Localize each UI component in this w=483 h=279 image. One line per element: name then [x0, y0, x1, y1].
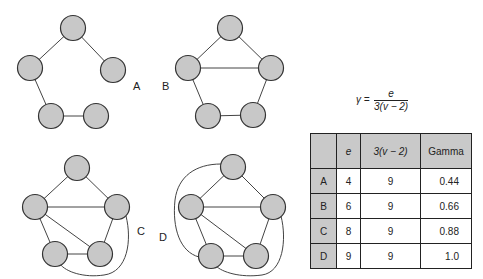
- cell-edges: 4: [337, 169, 361, 194]
- cell-max-edges: 9: [361, 169, 421, 194]
- node-right: [259, 56, 284, 81]
- node-top: [218, 16, 243, 41]
- row-graph-label: D: [311, 244, 337, 269]
- node-bottom-left: [39, 104, 64, 129]
- formula-denominator: 3(v − 2): [374, 101, 408, 113]
- table-row: D 9 9 1.0: [311, 244, 472, 269]
- cell-gamma: 0.44: [421, 169, 472, 194]
- cell-max-edges: 9: [361, 219, 421, 244]
- graph-d: D: [159, 155, 286, 276]
- gamma-table: e 3(v − 2) Gamma A 4 9 0.44 B 6 9 0.66 C…: [310, 133, 472, 269]
- node-bottom-left: [199, 244, 224, 269]
- node-top: [221, 155, 246, 180]
- cell-gamma: 0.66: [421, 194, 472, 219]
- node-left: [179, 195, 204, 220]
- cell-max-edges: 9: [361, 194, 421, 219]
- node-top: [61, 16, 86, 41]
- cell-gamma: 1.0: [421, 244, 472, 269]
- cell-edges: 8: [337, 219, 361, 244]
- node-right: [101, 58, 126, 83]
- node-bottom-right: [84, 104, 109, 129]
- table-row: C 8 9 0.88: [311, 219, 472, 244]
- formula-lhs: γ =: [356, 94, 370, 105]
- table-row: B 6 9 0.66: [311, 194, 472, 219]
- node-right: [261, 195, 286, 220]
- graph-c: C: [23, 156, 146, 276]
- graph-label-a: A: [133, 80, 141, 92]
- graph-a: A: [18, 16, 142, 129]
- header-max-edges: 3(v − 2): [361, 134, 421, 169]
- row-graph-label: B: [311, 194, 337, 219]
- graph-label-b: B: [162, 80, 169, 92]
- node-top: [65, 156, 90, 181]
- node-bottom-right: [244, 244, 269, 269]
- formula-fraction: e 3(v − 2): [374, 88, 408, 113]
- table-row: A 4 9 0.44: [311, 169, 472, 194]
- node-left: [176, 56, 201, 81]
- row-graph-label: A: [311, 169, 337, 194]
- graph-label-c: C: [137, 225, 145, 237]
- node-right: [105, 195, 130, 220]
- node-left: [18, 56, 43, 81]
- header-edges: e: [337, 134, 361, 169]
- formula-numerator: e: [374, 88, 408, 101]
- header-gamma: Gamma: [421, 134, 472, 169]
- node-bottom-left: [43, 242, 68, 267]
- cell-edges: 6: [337, 194, 361, 219]
- table-header-row: e 3(v − 2) Gamma: [311, 134, 472, 169]
- header-graph: [311, 134, 337, 169]
- graph-b: B: [162, 16, 284, 129]
- node-left: [23, 195, 48, 220]
- node-bottom-right: [88, 242, 113, 267]
- node-bottom-left: [196, 104, 221, 129]
- graph-label-d: D: [159, 231, 167, 243]
- node-bottom-right: [241, 103, 266, 128]
- row-graph-label: C: [311, 219, 337, 244]
- cell-gamma: 0.88: [421, 219, 472, 244]
- cell-edges: 9: [337, 244, 361, 269]
- cell-max-edges: 9: [361, 244, 421, 269]
